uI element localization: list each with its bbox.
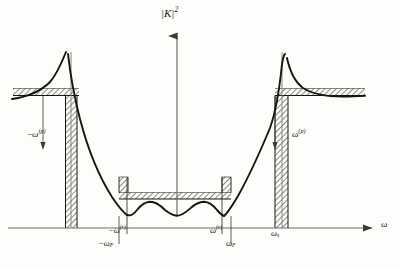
passband-ripple-hatched-band — [119, 193, 231, 200]
pos-omega-p-label: ω(p) — [292, 130, 305, 139]
neg-omega-p-arrowhead — [40, 142, 45, 150]
pos-omega-r-label: ω(r) — [210, 226, 222, 235]
omega-s-label: ωs — [271, 229, 279, 238]
y-axis-label: |K|2 — [161, 8, 178, 19]
upper-left-hatched-band — [13, 89, 79, 97]
hatched-regions — [13, 89, 365, 229]
figure-container: |K|2 ω −ω(p) ω(p) −ω(r) ω(r) −ωF ωF ωs — [0, 0, 400, 269]
neg-omega-r-label: −ω(r) — [109, 226, 126, 235]
response-curve — [12, 52, 365, 216]
curve-ripples — [127, 202, 224, 216]
pos-omega-F-label: ωF — [226, 239, 236, 248]
figure-svg — [0, 0, 400, 269]
x-axis-label: ω — [381, 220, 387, 229]
passband-right-tab-hatched — [222, 177, 231, 193]
neg-omega-p-label: −ω(p) — [27, 130, 46, 139]
neg-omega-F-label: −ωF — [99, 239, 113, 248]
